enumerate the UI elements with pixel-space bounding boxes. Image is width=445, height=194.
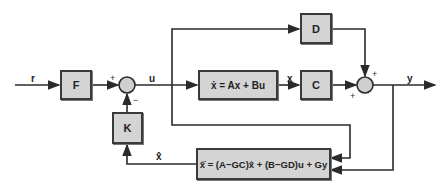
summing-junction-1 <box>119 77 135 93</box>
signal-x-label: x <box>287 74 293 84</box>
block-d: D <box>300 13 332 44</box>
sum1-minus-sign: − <box>133 96 138 105</box>
sum2-left-plus-sign: + <box>350 92 355 101</box>
block-f: F <box>60 70 92 100</box>
block-plant: ẋ = Ax + Bu <box>198 70 278 100</box>
wire-d-out <box>332 29 365 76</box>
signal-r-label: r <box>31 74 35 84</box>
signal-u-label: u <box>149 74 155 84</box>
signal-xhat-label: x̂ <box>156 152 162 162</box>
block-c: C <box>300 70 332 100</box>
summing-junction-2 <box>357 77 373 93</box>
sum2-top-plus-sign: + <box>372 70 377 79</box>
block-estimator: x̂̇ = (A−GC)x̂ + (B−GD)u + Gy <box>196 148 331 180</box>
signal-y-label: y <box>407 74 413 84</box>
block-k: K <box>112 112 143 144</box>
sum1-plus-sign: + <box>110 74 115 83</box>
